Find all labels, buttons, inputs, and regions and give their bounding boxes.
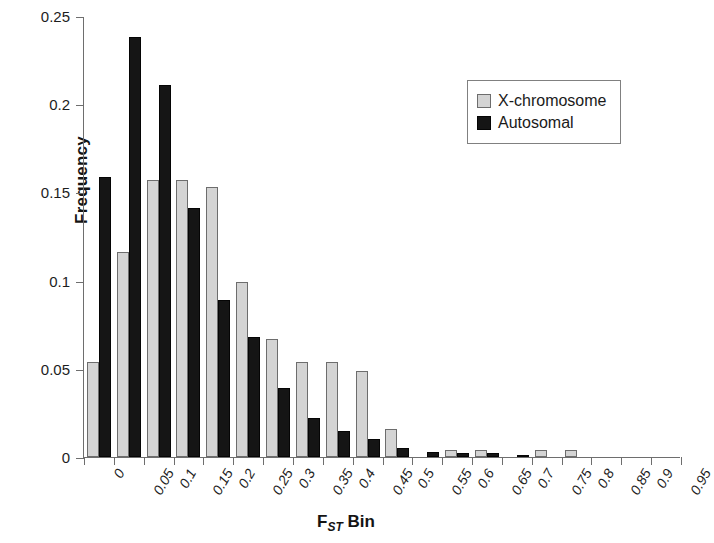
bar [368, 439, 380, 457]
bar [356, 371, 368, 457]
x-axis-tick-label: 0.05 [149, 466, 176, 498]
x-axis-tick-label: 0.4 [354, 466, 378, 491]
y-axis-tick: 0.1 [76, 282, 84, 283]
x-axis-tick [412, 457, 413, 465]
x-axis-tick-label: 0.35 [329, 466, 356, 498]
x-axis-tick [114, 457, 115, 465]
y-axis-tick: 0.2 [76, 105, 84, 106]
x-axis-tick [472, 457, 473, 465]
bar [535, 450, 547, 457]
x-axis-tick [323, 457, 324, 465]
bar-group [532, 450, 562, 457]
x-axis-tick-label: 0.95 [687, 466, 714, 498]
bar [248, 337, 260, 457]
x-axis-tick-label: 0.5 [414, 466, 438, 491]
x-axis-tick-label: 0.6 [474, 466, 498, 491]
bar-group [383, 429, 413, 457]
bar-group [412, 452, 442, 457]
x-axis-tick [203, 457, 204, 465]
y-axis-tick: 0.05 [76, 370, 84, 371]
x-axis-tick-label: 0.75 [567, 466, 594, 498]
bar [475, 450, 487, 457]
x-axis-tick-label: 0.3 [295, 466, 319, 491]
x-axis-tick [621, 457, 622, 465]
bar-group [323, 362, 353, 457]
bar [266, 339, 278, 457]
y-axis-tick-label: 0.1 [49, 273, 70, 290]
x-axis-tick-label: 0.2 [235, 466, 259, 491]
x-axis-tick [383, 457, 384, 465]
bar [206, 187, 218, 457]
x-axis-tick-label: 0.55 [448, 466, 475, 498]
bar [565, 450, 577, 457]
bar-group [144, 85, 174, 457]
x-axis-tick [532, 457, 533, 465]
x-axis-tick-label: 0.15 [209, 466, 236, 498]
x-axis-tick [591, 457, 592, 465]
legend-swatch-icon [477, 116, 491, 130]
x-axis-tick [263, 457, 264, 465]
x-axis-tick [84, 457, 85, 465]
bar-group [472, 450, 502, 457]
x-axis-tick [502, 457, 503, 465]
bar-group [502, 455, 532, 457]
bar [129, 37, 141, 457]
bar [457, 453, 469, 457]
bar [236, 282, 248, 457]
x-axis-tick [651, 457, 652, 465]
legend: X-chromosome Autosomal [467, 80, 621, 144]
x-axis-title-subscript: ST [327, 520, 342, 534]
y-axis-tick: 0.25 [76, 17, 84, 18]
x-axis-title-main: F [317, 512, 327, 531]
y-axis-tick-label: 0.25 [41, 8, 70, 25]
x-axis-tick [144, 457, 145, 465]
legend-item-x-chromosome: X-chromosome [477, 92, 606, 110]
x-axis-tick-label: 0.9 [653, 466, 677, 491]
bar-group [442, 450, 472, 457]
bar [87, 362, 99, 457]
x-axis-tick [353, 457, 354, 465]
legend-swatch-icon [477, 94, 491, 108]
y-axis-tick-label: 0.2 [49, 96, 70, 113]
bar-group [174, 180, 204, 457]
x-axis-tick-label: 0.45 [388, 466, 415, 498]
x-axis-tick-label: 0 [110, 466, 128, 481]
y-axis-tick-label: 0.05 [41, 361, 70, 378]
bar [427, 452, 439, 457]
x-axis-title: FST Bin [0, 512, 692, 534]
x-axis-tick-label: 0.8 [593, 466, 617, 491]
x-axis-title-tail: Bin [343, 512, 375, 531]
bar [326, 362, 338, 457]
bar-group [263, 339, 293, 457]
x-axis-tick [293, 457, 294, 465]
x-axis-tick [174, 457, 175, 465]
bar-group [114, 37, 144, 457]
y-axis-tick: 0 [76, 458, 84, 459]
bar [296, 362, 308, 457]
bar [397, 448, 409, 457]
bar [487, 453, 499, 457]
x-axis-tick-label: 0.1 [175, 466, 199, 491]
x-axis-tick-label: 0.7 [534, 466, 558, 491]
x-axis-tick [442, 457, 443, 465]
bar [117, 252, 129, 457]
bar-group [562, 450, 592, 457]
bar [147, 180, 159, 457]
x-axis-tick-label: 0.65 [508, 466, 535, 498]
bar [385, 429, 397, 457]
legend-item-autosomal: Autosomal [477, 114, 606, 132]
legend-label: X-chromosome [498, 92, 606, 110]
legend-label: Autosomal [498, 114, 574, 132]
bar [188, 208, 200, 457]
bar-group [233, 282, 263, 457]
y-axis-tick-label: 0 [62, 449, 70, 466]
bar [278, 388, 290, 457]
bar [445, 450, 457, 457]
bar-group [353, 371, 383, 457]
x-axis-tick [562, 457, 563, 465]
bar [159, 85, 171, 457]
bar-group [293, 362, 323, 457]
bar [218, 300, 230, 457]
x-axis-tick-label: 0.85 [627, 466, 654, 498]
